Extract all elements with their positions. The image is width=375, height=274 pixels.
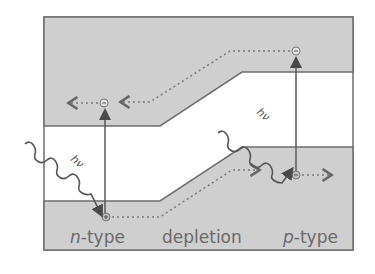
electron-right	[292, 47, 300, 55]
hole-left	[102, 213, 110, 221]
hole-right	[292, 171, 300, 179]
electron-left	[100, 99, 108, 107]
pn-junction-band-diagram: hν hν n-type depletion p-type	[0, 0, 375, 274]
region-label-n-type: n-type	[70, 227, 125, 247]
region-label-p-type: p-type	[282, 227, 338, 247]
region-label-depletion: depletion	[162, 227, 242, 247]
